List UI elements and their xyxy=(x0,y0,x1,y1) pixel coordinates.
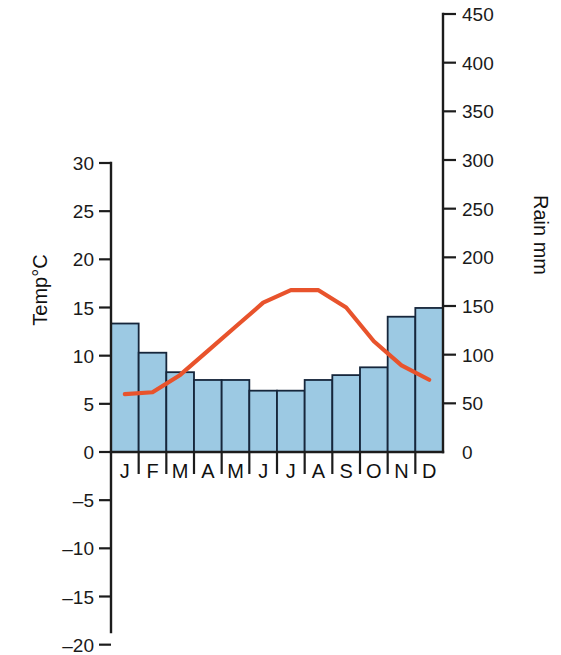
right-tick-label: 200 xyxy=(462,247,494,268)
right-tick-label: 100 xyxy=(462,345,494,366)
rain-bar xyxy=(305,380,333,452)
month-label: A xyxy=(312,460,326,482)
rain-bar xyxy=(332,375,360,452)
left-tick-label: –20 xyxy=(62,635,94,655)
left-tick-label: 5 xyxy=(83,394,94,415)
rain-bar xyxy=(249,391,277,452)
month-label: S xyxy=(339,460,352,482)
month-label: J xyxy=(258,460,268,482)
month-label: M xyxy=(227,460,244,482)
rain-bar xyxy=(360,367,388,452)
right-tick-label: 150 xyxy=(462,296,494,317)
right-tick-label: 350 xyxy=(462,101,494,122)
right-tick-label: 400 xyxy=(462,53,494,74)
right-tick-label: 50 xyxy=(462,393,483,414)
rain-bar xyxy=(388,317,416,452)
month-label: M xyxy=(172,460,189,482)
left-tick-label: 30 xyxy=(73,153,94,174)
left-tick-label: –15 xyxy=(62,587,94,608)
left-tick-label: 15 xyxy=(73,298,94,319)
left-tick-label: 10 xyxy=(73,346,94,367)
rain-bar xyxy=(139,353,167,452)
month-label: N xyxy=(394,460,408,482)
right-axis-title: Rain mm xyxy=(530,195,552,275)
left-tick-label: 0 xyxy=(83,442,94,463)
right-tick-label: 0 xyxy=(462,442,473,463)
climograph-page: 302520151050–5–10–15–20 Temp°C 450400350… xyxy=(0,0,561,655)
month-label: D xyxy=(422,460,436,482)
left-axis-title: Temp°C xyxy=(29,254,51,325)
left-tick-label: –5 xyxy=(73,490,94,511)
month-label: O xyxy=(366,460,382,482)
left-tick-label: 20 xyxy=(73,249,94,270)
left-tick-label: 25 xyxy=(73,201,94,222)
climate-chart: 302520151050–5–10–15–20 Temp°C 450400350… xyxy=(0,0,561,655)
right-tick-label: 450 xyxy=(462,4,494,25)
rain-bar xyxy=(277,391,305,452)
left-tick-label: –10 xyxy=(62,538,94,559)
rain-bar xyxy=(194,380,222,452)
right-tick-label: 300 xyxy=(462,150,494,171)
month-label: J xyxy=(120,460,130,482)
month-label: F xyxy=(146,460,158,482)
right-tick-label: 250 xyxy=(462,199,494,220)
rain-bar xyxy=(111,324,139,452)
month-label: A xyxy=(201,460,215,482)
rain-bar xyxy=(166,372,194,452)
month-label: J xyxy=(286,460,296,482)
rain-bar xyxy=(222,380,250,452)
